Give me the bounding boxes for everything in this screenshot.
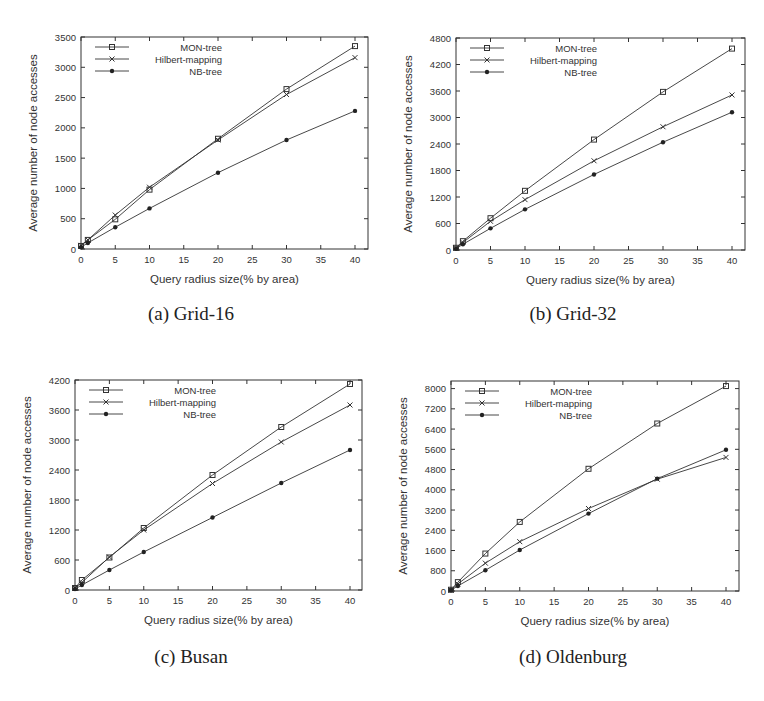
dot-marker-icon [216, 170, 220, 174]
y-tick-label: 1800 [49, 495, 70, 506]
x-tick-label: 30 [658, 255, 669, 266]
y-axis-label: Average number of node accesses [402, 55, 414, 233]
legend-label: Hilbert-mapping [155, 54, 222, 65]
x-tick-label: 10 [520, 255, 531, 266]
dot-marker-icon [348, 448, 352, 452]
x-marker-icon [348, 403, 353, 408]
x-tick-label: 40 [727, 255, 738, 266]
legend-label: NB-tree [189, 66, 222, 77]
x-tick-label: 25 [247, 254, 258, 265]
x-tick-label: 20 [583, 596, 594, 607]
y-tick-label: 0 [441, 586, 446, 597]
x-tick-label: 35 [310, 595, 321, 606]
x-tick-label: 0 [72, 595, 77, 606]
y-tick-label: 6400 [425, 424, 446, 435]
x-tick-label: 10 [514, 596, 525, 607]
dot-marker-icon [655, 476, 659, 480]
x-tick-label: 5 [483, 596, 488, 607]
dot-marker-icon [523, 207, 527, 211]
dot-marker-icon [461, 242, 465, 246]
y-tick-label: 600 [435, 218, 451, 229]
legend-label: Hilbert-mapping [525, 398, 592, 409]
y-tick-label: 3000 [49, 435, 70, 446]
dot-marker-icon [80, 583, 84, 587]
x-tick-label: 10 [138, 595, 149, 606]
y-tick-label: 4200 [49, 375, 70, 386]
x-tick-label: 25 [242, 595, 253, 606]
y-tick-label: 3000 [55, 62, 76, 73]
y-tick-label: 2400 [49, 465, 70, 476]
x-marker-icon [488, 219, 493, 224]
y-axis-label: Average number of node accesses [21, 396, 33, 574]
y-tick-label: 1600 [425, 545, 446, 556]
y-tick-label: 1500 [55, 153, 76, 164]
y-tick-label: 500 [60, 213, 76, 224]
legend: MON-treeHilbert-mappingNB-tree [465, 386, 592, 421]
x-tick-label: 30 [652, 596, 663, 607]
x-tick-label: 5 [488, 255, 493, 266]
dot-marker-icon [284, 138, 288, 142]
y-tick-label: 3200 [425, 505, 446, 516]
y-tick-label: 2400 [430, 139, 451, 150]
y-tick-label: 0 [446, 245, 451, 256]
panel-busan: 0510152025303540Query radius size(% by a… [0, 340, 382, 690]
dot-marker-icon [518, 548, 522, 552]
dot-marker-icon [86, 241, 90, 245]
dot-marker-icon [586, 511, 590, 515]
x-marker-icon [724, 455, 729, 460]
x-axis-label: Query radius size(% by area) [526, 274, 675, 286]
dot-marker-icon [107, 568, 111, 572]
x-axis-label: Query radius size(% by area) [521, 615, 670, 627]
chart-oldenburg: 0510152025303540Query radius size(% by a… [382, 340, 764, 640]
series-nb-tree [454, 110, 734, 251]
series-nb-tree [73, 448, 352, 591]
dot-marker-icon [485, 70, 489, 74]
y-tick-label: 8000 [425, 383, 446, 394]
panel-grid-16: 0510152025303540Query radius size(% by a… [0, 0, 382, 350]
y-tick-label: 4000 [425, 484, 446, 495]
caption-grid-32: (b) Grid-32 [382, 303, 764, 325]
y-tick-label: 7200 [425, 403, 446, 414]
x-tick-label: 15 [173, 595, 184, 606]
x-tick-label: 10 [144, 254, 155, 265]
x-tick-label: 20 [213, 254, 224, 265]
x-marker-icon [523, 197, 528, 202]
panel-grid-32: 0510152025303540Query radius size(% by a… [382, 0, 764, 350]
x-tick-label: 20 [207, 595, 218, 606]
y-tick-label: 3500 [55, 32, 76, 43]
legend-label: Hilbert-mapping [149, 397, 216, 408]
y-tick-label: 0 [71, 244, 76, 255]
y-tick-label: 5600 [425, 444, 446, 455]
y-tick-label: 4800 [425, 464, 446, 475]
x-marker-icon [483, 561, 488, 566]
x-tick-label: 40 [350, 254, 361, 265]
x-tick-label: 0 [78, 254, 83, 265]
caption-oldenburg: (d) Oldenburg [382, 646, 764, 668]
x-tick-label: 30 [276, 595, 287, 606]
legend-label: MON-tree [550, 386, 592, 397]
y-tick-label: 1800 [430, 165, 451, 176]
x-marker-icon [661, 124, 666, 129]
legend-label: NB-tree [564, 67, 597, 78]
dot-marker-icon [661, 140, 665, 144]
series-hilbert-mapping [449, 455, 729, 593]
x-tick-label: 35 [692, 255, 703, 266]
dot-marker-icon [456, 584, 460, 588]
chart-grid-16: 0510152025303540Query radius size(% by a… [0, 0, 382, 300]
series-hilbert-mapping [73, 403, 353, 591]
y-tick-label: 600 [54, 555, 70, 566]
y-tick-label: 800 [430, 565, 446, 576]
x-tick-label: 15 [554, 255, 565, 266]
y-tick-label: 1200 [49, 525, 70, 536]
legend: MON-treeHilbert-mappingNB-tree [470, 43, 597, 78]
dot-marker-icon [142, 550, 146, 554]
caption-busan: (c) Busan [0, 646, 382, 668]
dot-marker-icon [353, 109, 357, 113]
x-tick-label: 40 [345, 595, 356, 606]
y-tick-label: 4800 [430, 33, 451, 44]
legend: MON-treeHilbert-mappingNB-tree [95, 42, 222, 77]
plot-area [456, 38, 745, 250]
y-tick-label: 2500 [55, 92, 76, 103]
dot-marker-icon [483, 568, 487, 572]
x-marker-icon [210, 481, 215, 486]
